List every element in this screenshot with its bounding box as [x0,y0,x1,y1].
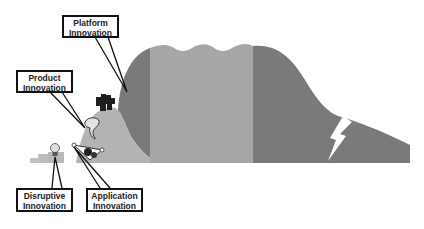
innovation-mountain-diagram: Platform Innovation Product Innovation D… [0,0,424,229]
callout-line2: Innovation [18,83,71,93]
callout-line2: Innovation [64,28,117,38]
decline-region [253,46,410,163]
application-innovation-callout: Application Innovation [86,188,143,212]
platform-innovation-callout: Platform Innovation [62,15,119,38]
step-medium [38,154,48,163]
callout-line1: Disruptive [18,191,71,201]
callout-line2: Innovation [18,201,71,211]
maturity-region [150,44,253,163]
callout-line1: Platform [64,18,117,28]
callout-line1: Product [18,73,71,83]
callout-line2: Innovation [88,201,141,211]
product-innovation-callout: Product Innovation [16,70,73,93]
step-small [30,158,38,163]
disruptive-innovation-callout: Disruptive Innovation [16,188,73,212]
callout-line1: Application [88,191,141,201]
